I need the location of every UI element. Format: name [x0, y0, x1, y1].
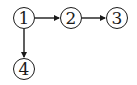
node-1-label: 1 — [19, 8, 30, 28]
node-2-label: 2 — [66, 8, 77, 28]
node-4: 4 — [14, 59, 35, 80]
node-3: 3 — [107, 8, 128, 29]
node-1: 1 — [14, 8, 35, 29]
diagram-svg: 1 2 3 4 — [0, 0, 137, 85]
node-4-label: 4 — [19, 59, 30, 79]
flow-diagram: 1 2 3 4 — [0, 0, 137, 85]
node-2: 2 — [61, 8, 82, 29]
node-3-label: 3 — [112, 8, 123, 28]
